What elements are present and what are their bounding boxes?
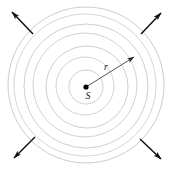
wave-figure-canvas: S r xyxy=(0,0,175,173)
point-source-dot xyxy=(83,84,88,89)
radius-label-r: r xyxy=(104,61,108,72)
wave-propagation-figure: S r xyxy=(0,0,175,173)
source-label-S: S xyxy=(86,90,91,101)
